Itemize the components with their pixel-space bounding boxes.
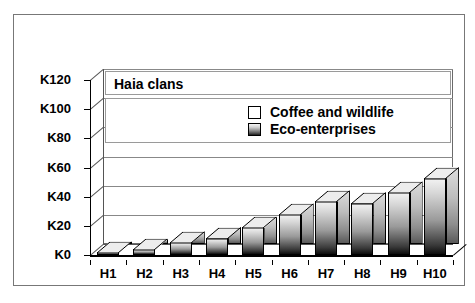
x-axis-label-H5: H5 (233, 266, 273, 281)
wall-edge-80 (90, 127, 104, 139)
x-axis-label-H7: H7 (306, 266, 346, 281)
bar-H5[interactable] (242, 216, 264, 255)
y-axis-back-line (103, 69, 104, 244)
x-tick-mark-origin (90, 260, 91, 265)
gridline-120 (103, 69, 453, 70)
legend-label-coffee-and-wildlife: Coffee and wildlife (270, 104, 394, 120)
legend-label-eco-enterprises: Eco-enterprises (270, 121, 376, 137)
legend-item-eco-enterprises: Eco-enterprises (248, 121, 376, 137)
x-tick-mark (199, 260, 200, 265)
bar-side-face (446, 167, 459, 244)
bar-H3[interactable] (170, 231, 192, 255)
x-tick-mark (417, 260, 418, 265)
bar-H8[interactable] (351, 192, 373, 256)
bar-front-face (242, 227, 264, 255)
y-axis-tick-label: K20 (23, 219, 71, 232)
x-tick-mark (163, 260, 164, 265)
y-axis-tick-label: K40 (23, 190, 71, 203)
wall-edge-60 (90, 157, 104, 169)
y-axis-tick-label: K60 (23, 161, 71, 174)
wall-edge-120 (90, 69, 104, 81)
floor-right-edge (453, 244, 467, 256)
bar-top-face (97, 241, 132, 253)
y-axis-line (90, 80, 91, 255)
legend-swatch-eco-enterprises-icon (248, 123, 261, 136)
x-tick-mark (453, 260, 454, 265)
wall-edge-40 (90, 186, 104, 198)
x-axis-label-H4: H4 (197, 266, 237, 281)
legend-item-coffee-and-wildlife: Coffee and wildlife (248, 104, 394, 120)
x-axis-label-H9: H9 (379, 266, 419, 281)
y-axis-tick-label: K120 (23, 73, 71, 86)
x-tick-mark (380, 260, 381, 265)
bar-front-face (315, 201, 337, 255)
chart-title: Haia clans (114, 76, 183, 92)
x-tick-mark (126, 260, 127, 265)
x-tick-mark (235, 260, 236, 265)
wall-edge-20 (90, 215, 104, 227)
bar-H7[interactable] (315, 190, 337, 255)
y-axis-tick-label: K80 (23, 131, 71, 144)
bar-front-face (170, 242, 192, 255)
bar-front-face (279, 214, 301, 255)
bar-chart: H1H2H3H4H5H6H7H8H9H10 K0K20K40K60K80K100… (13, 14, 465, 286)
bar-front-face (424, 178, 446, 255)
chart-title-box: Haia clans (105, 71, 451, 95)
bar-H1[interactable] (97, 241, 119, 255)
chart-page: H1H2H3H4H5H6H7H8H9H10 K0K20K40K60K80K100… (0, 0, 475, 303)
bar-H6[interactable] (279, 203, 301, 255)
x-axis-label-H2: H2 (124, 266, 164, 281)
x-axis-label-H3: H3 (161, 266, 201, 281)
y-axis-tick-label: K100 (23, 102, 71, 115)
x-axis-label-H1: H1 (88, 266, 128, 281)
legend-swatch-coffee-and-wildlife-icon (248, 106, 261, 119)
y-axis-labels: K0K20K40K60K80K100K120 (23, 14, 71, 286)
wall-edge-100 (90, 98, 104, 110)
chart-legend: Coffee and wildlife Eco-enterprises (105, 98, 451, 143)
bar-front-face (351, 203, 373, 256)
x-axis-label-H8: H8 (342, 266, 382, 281)
bar-front-face (206, 238, 228, 256)
x-axis-label-H10: H10 (415, 266, 455, 281)
gridline-60 (103, 157, 453, 158)
x-tick-mark (308, 260, 309, 265)
bar-H9[interactable] (388, 181, 410, 255)
bar-H10[interactable] (424, 167, 446, 255)
x-tick-mark (344, 260, 345, 265)
x-axis-label-H6: H6 (270, 266, 310, 281)
x-axis-line (90, 255, 453, 257)
x-tick-mark (272, 260, 273, 265)
y-axis-tick-label: K0 (23, 248, 71, 261)
plot-area: H1H2H3H4H5H6H7H8H9H10 (13, 14, 465, 286)
bar-front-face (388, 192, 410, 255)
bar-H2[interactable] (133, 238, 155, 255)
bar-H4[interactable] (206, 227, 228, 256)
